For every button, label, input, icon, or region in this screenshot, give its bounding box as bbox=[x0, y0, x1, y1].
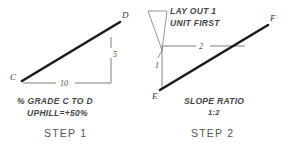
diagram-canvas: C D 10 5 % GRADE C TO D UPHILL=+50% STEP… bbox=[0, 0, 290, 146]
point-label-e: E bbox=[151, 91, 158, 101]
technical-drawing: C D 10 5 % GRADE C TO D UPHILL=+50% STEP… bbox=[0, 0, 290, 146]
annotation-slope-ratio-value: 1:2 bbox=[208, 108, 220, 117]
callout-leader-left-stroke bbox=[148, 11, 162, 50]
point-label-d: D bbox=[121, 10, 129, 20]
dimension-rise-5: 5 bbox=[113, 50, 117, 59]
callout-arrow-tick bbox=[158, 50, 162, 58]
annotation-slope-ratio-label: SLOPE RATIO bbox=[184, 96, 244, 106]
panel-step-2: LAY OUT 1 UNIT FIRST E F 2 1 SLOPE RATIO… bbox=[148, 6, 276, 139]
callout-line-2: UNIT FIRST bbox=[170, 18, 220, 28]
point-label-f: F bbox=[269, 13, 276, 23]
caption-step-2: STEP 2 bbox=[191, 127, 234, 139]
callout-leader-right-stroke bbox=[162, 11, 167, 50]
point-label-c: C bbox=[10, 72, 17, 82]
slope-line-e-to-f bbox=[160, 25, 268, 90]
dimension-run-10: 10 bbox=[60, 79, 68, 88]
dimension-run-2: 2 bbox=[199, 42, 203, 51]
annotation-grade-line: % GRADE C TO D bbox=[17, 96, 93, 106]
caption-step-1: STEP 1 bbox=[44, 127, 87, 139]
annotation-uphill-line: UPHILL=+50% bbox=[27, 108, 88, 118]
panel-step-1: C D 10 5 % GRADE C TO D UPHILL=+50% STEP… bbox=[10, 10, 129, 139]
slope-line-c-to-d bbox=[22, 22, 120, 81]
callout-line-1: LAY OUT 1 bbox=[170, 6, 216, 16]
dimension-rise-1: 1 bbox=[155, 61, 159, 70]
